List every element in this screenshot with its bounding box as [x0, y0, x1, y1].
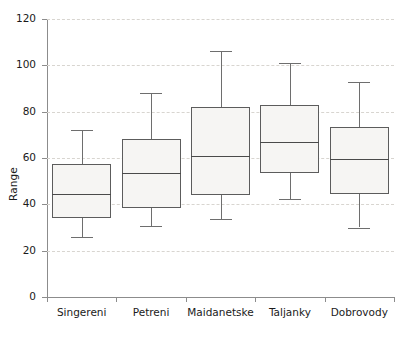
y-tick-label: 120 [0, 12, 36, 24]
lower-whisker-stem [151, 208, 152, 227]
median-line [191, 156, 250, 157]
x-axis-category-label: Maidanetske [186, 306, 255, 318]
y-tick-label: 0 [0, 290, 36, 302]
upper-whisker-stem [82, 130, 83, 164]
upper-whisker-cap [210, 51, 232, 52]
x-axis-category-label: Taljanky [255, 306, 324, 318]
x-tick-mark [186, 297, 187, 302]
x-tick-mark [47, 297, 48, 302]
lower-whisker-cap [279, 199, 301, 200]
x-axis-category-label: Dobrovody [325, 306, 394, 318]
upper-whisker-stem [151, 93, 152, 139]
lower-whisker-cap [71, 237, 93, 238]
upper-whisker-stem [290, 63, 291, 105]
upper-whisker-cap [140, 93, 162, 94]
x-tick-mark [255, 297, 256, 302]
lower-whisker-cap [210, 219, 232, 220]
lower-whisker-cap [140, 226, 162, 227]
box-iqr [191, 107, 250, 195]
plot-area [47, 19, 394, 297]
median-line [330, 159, 389, 160]
x-axis-category-label: Petreni [116, 306, 185, 318]
x-axis-line [47, 297, 395, 298]
upper-whisker-stem [221, 51, 222, 107]
median-line [52, 194, 111, 195]
y-tick-label: 100 [0, 58, 36, 70]
x-tick-mark [325, 297, 326, 302]
lower-whisker-stem [359, 194, 360, 228]
y-tick-label: 40 [0, 197, 36, 209]
box-iqr [330, 127, 389, 194]
x-tick-mark [116, 297, 117, 302]
x-tick-mark [394, 297, 395, 302]
upper-whisker-stem [359, 82, 360, 127]
lower-whisker-stem [82, 218, 83, 237]
median-line [122, 173, 181, 174]
x-axis-category-label: Singereni [47, 306, 116, 318]
boxplot-chart: Range 020406080100120 SingereniPetreniMa… [0, 0, 415, 340]
upper-whisker-cap [348, 82, 370, 83]
upper-whisker-cap [71, 130, 93, 131]
y-tick-label: 20 [0, 244, 36, 256]
y-tick-label: 80 [0, 105, 36, 117]
box-iqr [52, 164, 111, 218]
y-tick-label: 60 [0, 151, 36, 163]
lower-whisker-stem [290, 173, 291, 198]
lower-whisker-cap [348, 228, 370, 229]
upper-whisker-cap [279, 63, 301, 64]
median-line [260, 142, 319, 143]
lower-whisker-stem [221, 195, 222, 219]
box-iqr [260, 105, 319, 173]
